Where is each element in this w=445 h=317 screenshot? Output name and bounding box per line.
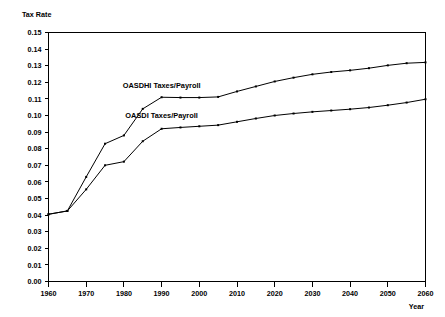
y-tick-label: 0.01 (28, 261, 42, 270)
series-data-point (161, 96, 163, 98)
series-data-point (85, 176, 87, 178)
series-line (49, 62, 426, 214)
series-label: OASDHI Taxes/Payroll (123, 81, 201, 90)
x-tick-label: 1990 (154, 289, 170, 298)
y-tick-label: 0.03 (28, 227, 42, 236)
series-data-point (368, 67, 370, 69)
series-data-point (142, 108, 144, 110)
x-tick-label: 2060 (418, 289, 434, 298)
series-data-point (255, 85, 257, 87)
series-labels-group: OASDHI Taxes/PayrollOASDI Taxes/Payroll (123, 81, 201, 120)
y-tick-label: 0.02 (28, 244, 42, 253)
x-tick-label: 1960 (41, 289, 57, 298)
series-label: OASDI Taxes/Payroll (125, 111, 198, 120)
x-tick-label: 2010 (229, 289, 245, 298)
series-data-point (179, 97, 181, 99)
series-data-point (104, 164, 106, 166)
series-data-point (104, 143, 106, 145)
y-tick-label: 0.07 (28, 161, 42, 170)
x-tick-label: 2030 (304, 289, 320, 298)
series-data-point (123, 134, 125, 136)
y-tick-label: 0.10 (28, 111, 42, 120)
series-data-point (425, 98, 427, 100)
x-tick-label: 1980 (116, 289, 132, 298)
series-data-point (198, 125, 200, 127)
y-tick-label: 0.12 (28, 78, 42, 87)
tax-rate-line-chart: Tax Rate Year 0.000.010.020.030.040.050.… (0, 0, 445, 317)
series-data-point (66, 210, 68, 212)
series-data-point (293, 113, 295, 115)
series-data-point (349, 69, 351, 71)
series-data-point (311, 73, 313, 75)
y-axis-title: Tax Rate (22, 10, 51, 19)
series-line (49, 99, 426, 214)
series-data-point (368, 107, 370, 109)
y-tick-label: 0.11 (28, 95, 42, 104)
x-tick-label: 2050 (380, 289, 396, 298)
y-tick-label: 0.13 (28, 61, 42, 70)
series-data-point (142, 140, 144, 142)
series-data-point (217, 96, 219, 98)
x-tick-label: 2000 (191, 289, 207, 298)
series-data-point (236, 121, 238, 123)
y-tick-label: 0.09 (28, 128, 42, 137)
y-tick-label: 0.05 (28, 194, 42, 203)
series-data-point (330, 110, 332, 112)
y-tick-label: 0.00 (28, 277, 42, 286)
data-series-group (48, 61, 427, 215)
plot-frame (49, 33, 426, 282)
series-data-point (387, 64, 389, 66)
series-data-point (274, 115, 276, 117)
x-axis-title: Year (409, 302, 424, 311)
series-data-point (198, 97, 200, 99)
series-data-point (217, 124, 219, 126)
series-data-point (406, 102, 408, 104)
series-data-point (123, 161, 125, 163)
x-axis-ticks: 1960197019801990200020102020203020402050… (41, 282, 434, 299)
series-data-point (425, 61, 427, 63)
series-data-point (255, 117, 257, 119)
series-data-point (293, 77, 295, 79)
y-tick-label: 0.06 (28, 178, 42, 187)
y-tick-label: 0.15 (28, 28, 42, 37)
x-tick-label: 2020 (267, 289, 283, 298)
series-data-point (274, 80, 276, 82)
series-data-point (387, 104, 389, 106)
data-series (48, 98, 427, 215)
x-tick-label: 1970 (78, 289, 94, 298)
series-data-point (161, 128, 163, 130)
y-tick-label: 0.14 (28, 45, 42, 54)
series-data-point (406, 62, 408, 64)
series-data-point (85, 188, 87, 190)
data-series (48, 61, 427, 215)
series-data-point (311, 111, 313, 113)
series-data-point (349, 108, 351, 110)
y-tick-label: 0.04 (28, 211, 42, 220)
series-data-point (236, 90, 238, 92)
series-data-point (330, 71, 332, 73)
series-data-point (179, 126, 181, 128)
chart-container: Tax Rate Year 0.000.010.020.030.040.050.… (0, 0, 445, 317)
series-data-point (48, 213, 50, 215)
y-tick-label: 0.08 (28, 144, 42, 153)
x-tick-label: 2040 (342, 289, 358, 298)
y-axis-ticks: 0.000.010.020.030.040.050.060.070.080.09… (28, 28, 49, 286)
